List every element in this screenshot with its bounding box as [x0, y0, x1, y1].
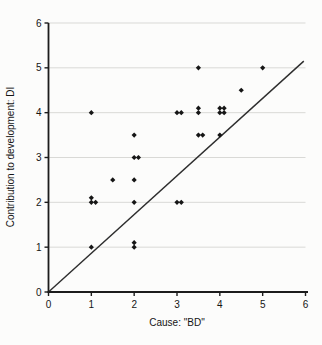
x-tick-label-2: 2 [131, 299, 137, 310]
reference-line [49, 61, 304, 292]
y-tick-label-3: 3 [36, 152, 42, 163]
x-tick-label-1: 1 [89, 299, 95, 310]
data-point [93, 200, 98, 205]
data-point [132, 177, 137, 182]
scatter-plot-figure: 01234560123456 Cause: "BD" Contribution … [0, 0, 322, 345]
y-tick-label-4: 4 [36, 107, 42, 118]
y-tick-label-0: 0 [36, 287, 42, 298]
data-point [136, 155, 141, 160]
x-tick-label-0: 0 [46, 299, 52, 310]
data-point [179, 200, 184, 205]
data-point [179, 110, 184, 115]
data-point [196, 110, 201, 115]
y-tick-label-1: 1 [36, 242, 42, 253]
data-point [110, 177, 115, 182]
data-point [217, 132, 222, 137]
data-point [132, 240, 137, 245]
data-point [196, 106, 201, 111]
data-point [222, 106, 227, 111]
scatter-chart: 01234560123456 [0, 0, 322, 345]
data-point [132, 245, 137, 250]
data-point [132, 200, 137, 205]
y-axis-title: Contribution to development: DI [5, 87, 16, 228]
data-point [89, 110, 94, 115]
y-tick-label-2: 2 [36, 197, 42, 208]
data-point [196, 65, 201, 70]
data-point [222, 110, 227, 115]
x-tick-label-3: 3 [174, 299, 180, 310]
y-tick-label-6: 6 [36, 18, 42, 29]
x-tick-label-5: 5 [260, 299, 266, 310]
data-point [132, 132, 137, 137]
x-tick-label-4: 4 [217, 299, 223, 310]
data-point [89, 245, 94, 250]
y-tick-label-5: 5 [36, 62, 42, 73]
data-point [239, 88, 244, 93]
x-axis-title: Cause: "BD" [149, 317, 204, 328]
x-tick-label-6: 6 [303, 299, 309, 310]
data-point [260, 65, 265, 70]
data-point [89, 195, 94, 200]
data-point [200, 132, 205, 137]
